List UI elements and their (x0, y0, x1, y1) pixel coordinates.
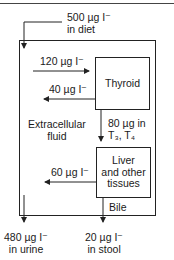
from-thyroid-label: 40 µg I⁻ (49, 83, 87, 95)
urine-route: in urine (4, 243, 48, 255)
diet-label: 500 µg I⁻ in diet (67, 11, 111, 35)
flow-arrows (0, 0, 174, 260)
thyroid-label: Thyroid (105, 78, 140, 90)
hormones-type: T₃, T₄ (108, 129, 146, 141)
ecf-label: Extracellular fluid (28, 118, 86, 142)
ecf-line-1: Extracellular (28, 118, 86, 130)
hormones-amount: 80 µg in (108, 117, 146, 129)
stool-route: in stool (85, 243, 123, 255)
thyroid-box: Thyroid (95, 57, 150, 110)
to-thyroid-label: 120 µg I⁻ (40, 55, 84, 67)
diet-amount: 500 µg I⁻ (67, 11, 111, 23)
urine-label: 480 µg I⁻ in urine (4, 231, 48, 255)
diet-source: in diet (67, 23, 111, 35)
from-liver-label: 60 µg I⁻ (51, 166, 89, 178)
urine-amount: 480 µg I⁻ (4, 231, 48, 243)
hormones-label: 80 µg in T₃, T₄ (108, 117, 146, 141)
liver-label-3: tissues (101, 178, 145, 190)
liver-tissues-box: Liver and other tissues (96, 147, 151, 198)
stool-label: 20 µg I⁻ in stool (85, 231, 123, 255)
bile-label: Bile (109, 201, 127, 213)
ecf-line-2: fluid (28, 130, 86, 142)
stool-amount: 20 µg I⁻ (85, 231, 123, 243)
